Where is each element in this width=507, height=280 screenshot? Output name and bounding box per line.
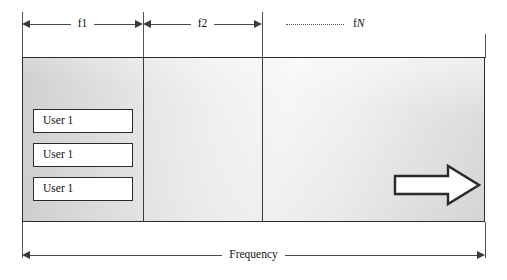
continuation-fn: fN <box>286 16 376 32</box>
dimension-frequency-label: Frequency <box>222 249 285 261</box>
dimension-rule <box>214 24 254 25</box>
user-box[interactable]: User 1 <box>33 143 133 167</box>
dimension-rule <box>30 255 222 256</box>
arrowhead-right-icon <box>254 20 262 28</box>
band-divider-f2-fn <box>262 57 263 222</box>
right-block-arrow-icon <box>393 163 481 207</box>
fn-italic-n: N <box>357 17 365 29</box>
user-box[interactable]: User 1 <box>33 109 133 133</box>
dotted-continuation-line <box>286 24 344 25</box>
band-divider-f1-f2 <box>143 57 144 222</box>
user-box-label: User 1 <box>43 183 73 195</box>
dimension-fn-label: fN <box>344 18 365 30</box>
dimension-rule <box>285 255 477 256</box>
witness-line-f2-end-top <box>262 12 263 58</box>
dimension-f1: f1 <box>22 16 143 32</box>
dimension-f2-label: f2 <box>191 18 215 30</box>
arrowhead-right-icon <box>135 20 143 28</box>
dimension-rule <box>30 24 71 25</box>
arrowhead-right-icon <box>477 251 485 259</box>
user-box-label: User 1 <box>43 149 73 161</box>
dimension-f1-label: f1 <box>71 18 95 30</box>
dimension-rule <box>151 24 191 25</box>
user-box-label: User 1 <box>43 115 73 127</box>
arrowhead-left-icon <box>22 251 30 259</box>
dimension-rule <box>94 24 135 25</box>
witness-line-right-bottom <box>485 222 486 258</box>
witness-line-right-top <box>485 34 486 58</box>
dimension-f2: f2 <box>143 16 262 32</box>
arrowhead-left-icon <box>22 20 30 28</box>
arrowhead-left-icon <box>143 20 151 28</box>
user-box[interactable]: User 1 <box>33 177 133 201</box>
dimension-frequency: Frequency <box>22 247 485 263</box>
diagram-canvas: f1 f2 fN User 1 User 1 User 1 Frequency <box>0 0 507 280</box>
